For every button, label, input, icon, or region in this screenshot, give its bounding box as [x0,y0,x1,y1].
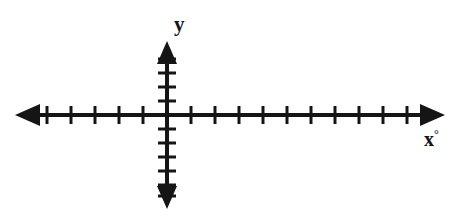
degree-icon: ° [434,127,439,141]
y-axis-top-arrowhead [157,41,177,64]
y-axis-label: y [174,14,185,35]
x-axis-label: x° [424,128,439,149]
coordinate-plane-figure: y x° [0,0,466,217]
x-axis-right-arrowhead [420,104,445,126]
x-axis-label-base: x [424,128,434,150]
axes-diagram [0,0,466,217]
x-axis-left-arrowhead [15,104,40,126]
